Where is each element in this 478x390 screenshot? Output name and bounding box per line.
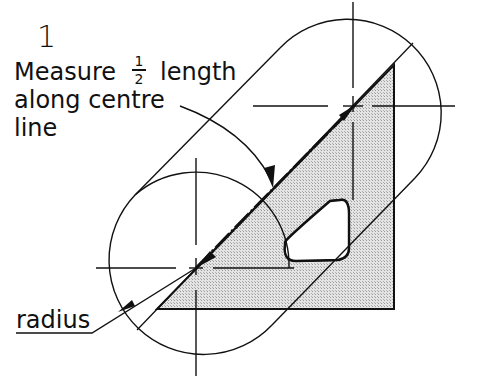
instruction-line1-prefix: Measure (14, 60, 116, 84)
fraction-numerator: 1 (132, 54, 146, 68)
instruction-leader (180, 106, 270, 178)
instruction-line1-suffix: length (160, 60, 237, 84)
instruction-leader-arrow (264, 165, 275, 188)
instruction-line2: along centre (14, 88, 165, 112)
instruction-line3: line (14, 116, 57, 140)
radius-label: radius (16, 308, 90, 332)
step-number: 1 (37, 22, 56, 52)
half-fraction: 1 2 (132, 54, 146, 86)
diagram-canvas: 1 Measure 1 2 length along centre line r… (0, 0, 478, 390)
fraction-denominator: 2 (132, 72, 146, 86)
